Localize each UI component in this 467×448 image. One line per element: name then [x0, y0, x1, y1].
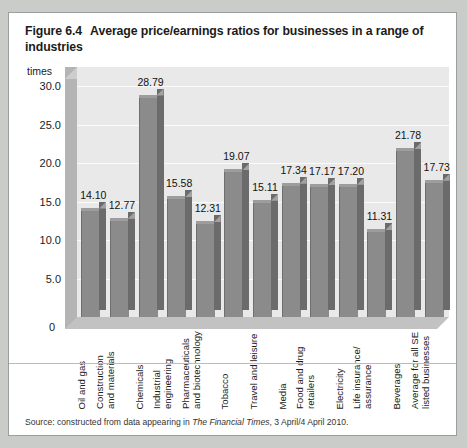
bar	[196, 222, 214, 317]
bar	[425, 181, 443, 317]
x-axis-label: Pharmaceuticalsand biotechnology	[181, 331, 202, 409]
bar-value-label: 12.77	[109, 199, 135, 211]
bar-top-face	[110, 218, 128, 221]
source-suffix: , 3 April/4 April 2010.	[270, 417, 349, 427]
bar-front-face	[196, 222, 215, 317]
y-axis-tick-label: 20.0	[27, 157, 61, 169]
x-axis-label: Food and drugretailers	[295, 347, 316, 409]
y-axis-ticks: 5.010.015.020.025.030.0	[25, 65, 61, 325]
bar-side-face	[185, 190, 192, 310]
y-axis-tick-label: 25.0	[27, 119, 61, 131]
bar-chart: times 5.010.015.020.025.030.0 0 14.1012.…	[25, 65, 449, 410]
x-axis-label: Chemicals	[134, 364, 145, 409]
bar-front-face	[167, 197, 186, 317]
x-axis-label-line: Media	[277, 383, 288, 409]
x-axis-label-line: and biotechnology	[191, 331, 202, 409]
bar-side-face	[414, 142, 421, 310]
x-axis-label-line: listed businesses	[420, 332, 431, 409]
figure-number: Figure 6.4	[25, 24, 82, 38]
bar-top-face	[367, 229, 385, 232]
x-axis-label: Life insurance/assurance	[352, 347, 373, 409]
x-axis-label-line: Pharmaceuticals	[181, 331, 192, 409]
bar-top-face	[167, 196, 185, 199]
bar-top-face	[253, 200, 271, 203]
x-axis-label-line: Beverages	[392, 363, 403, 409]
bar-top-face	[425, 180, 443, 183]
bar-top-face	[396, 148, 414, 151]
bar-value-label: 14.10	[80, 189, 106, 201]
bar-top-face	[81, 208, 99, 211]
x-axis-label: Constructionand materials	[95, 351, 116, 409]
bar-front-face	[339, 185, 358, 317]
bar	[110, 219, 128, 317]
bar-value-label: 15.11	[252, 181, 278, 193]
x-axis-label: Oil and gas	[77, 360, 88, 409]
y-axis-tick-label: 5.0	[27, 273, 61, 285]
x-axis-label: Media	[277, 383, 288, 409]
bar	[167, 197, 185, 317]
source-divider	[9, 363, 456, 364]
bar-value-label: 17.20	[338, 165, 364, 177]
bar	[310, 185, 328, 317]
bar-front-face	[224, 170, 243, 317]
bar-value-label: 12.31	[195, 202, 221, 214]
x-axis-label-line: Tobacco	[220, 373, 231, 409]
bar-value-label: 19.07	[223, 150, 249, 162]
bar-front-face	[367, 230, 386, 317]
plot-left-wall	[65, 67, 77, 329]
source-note: Source: constructed from data appearing …	[25, 417, 443, 427]
x-axis-label-line: Electricity	[334, 368, 345, 409]
bar-front-face	[310, 185, 329, 317]
source-prefix: Source: constructed from data appearing …	[25, 417, 192, 427]
bar-front-face	[253, 201, 272, 317]
bar-front-face	[282, 184, 301, 317]
x-axis-label-line: and materials	[105, 351, 116, 409]
page-title: Figure 6.4Average price/earnings ratios …	[25, 23, 443, 55]
plot-area: 14.1012.7728.7915.5812.3119.0715.1117.34…	[65, 67, 449, 329]
y-axis-tick-label: 10.0	[27, 234, 61, 246]
bar-series: 14.1012.7728.7915.5812.3119.0715.1117.34…	[77, 67, 449, 317]
y-axis-tick-zero: 0	[49, 321, 55, 333]
plot-left-wall-bevel	[65, 67, 77, 79]
bar-side-face	[357, 178, 364, 310]
bar-top-face	[196, 221, 214, 224]
bar-value-label: 15.58	[166, 177, 192, 189]
bar-front-face	[110, 219, 129, 317]
y-axis-tick-label: 30.0	[27, 80, 61, 92]
bar-front-face	[81, 209, 100, 317]
figure-title-text: Average price/earnings ratios for busine…	[25, 24, 424, 54]
x-axis-label: Average for all SElisted businesses	[410, 332, 431, 409]
bar-front-face	[139, 96, 158, 317]
bar-value-label: 17.17	[309, 165, 335, 177]
x-axis-label: Industrialengineering	[152, 359, 173, 409]
bar	[81, 209, 99, 317]
bar	[339, 185, 357, 317]
bar	[139, 96, 157, 317]
bar-top-face	[339, 184, 357, 187]
x-axis-label-line: assurance	[363, 347, 374, 409]
figure-card: Figure 6.4Average price/earnings ratios …	[8, 12, 457, 436]
bar-value-label: 21.78	[395, 129, 421, 141]
bar-value-label: 28.79	[137, 76, 163, 88]
bar	[367, 230, 385, 317]
figure-screenshot: Figure 6.4Average price/earnings ratios …	[0, 0, 467, 448]
source-publication: The Financial Times	[192, 417, 269, 427]
bar-side-face	[242, 163, 249, 310]
x-axis-label: Electricity	[334, 368, 345, 409]
x-axis-label-line: Chemicals	[134, 364, 145, 409]
bar	[253, 201, 271, 317]
bar-side-face	[385, 223, 392, 310]
bar-side-face	[214, 215, 221, 310]
bar	[224, 170, 242, 317]
bar-side-face	[128, 212, 135, 310]
x-axis-label-line: Travel and leisure	[249, 333, 260, 409]
x-axis-labels: Oil and gasConstructionand materialsChem…	[77, 333, 449, 409]
x-axis-label: Tobacco	[220, 373, 231, 409]
bar-front-face	[425, 181, 444, 317]
bar-side-face	[99, 202, 106, 310]
bar-side-face	[271, 194, 278, 310]
x-axis-label-line: engineering	[163, 359, 174, 409]
x-axis-label-line: Construction	[95, 351, 106, 409]
bar-front-face	[396, 149, 415, 317]
bar	[282, 184, 300, 317]
